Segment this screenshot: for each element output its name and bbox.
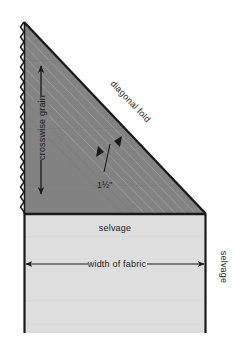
crosswise-grain-label: crosswise grain	[37, 95, 47, 160]
selvage-top-label: selvage	[99, 223, 131, 233]
width-of-fabric-label: width of fabric	[87, 259, 147, 269]
selvage-right-label: selvage	[219, 251, 229, 283]
raw-cut-edge-zigzag	[21, 22, 25, 214]
strip-width-label: 1½"	[97, 180, 112, 190]
bias-strip-diagram: crosswise grain diagonal fold 1½" selvag…	[0, 0, 234, 350]
diagram-canvas: crosswise grain diagonal fold 1½" selvag…	[0, 0, 234, 350]
